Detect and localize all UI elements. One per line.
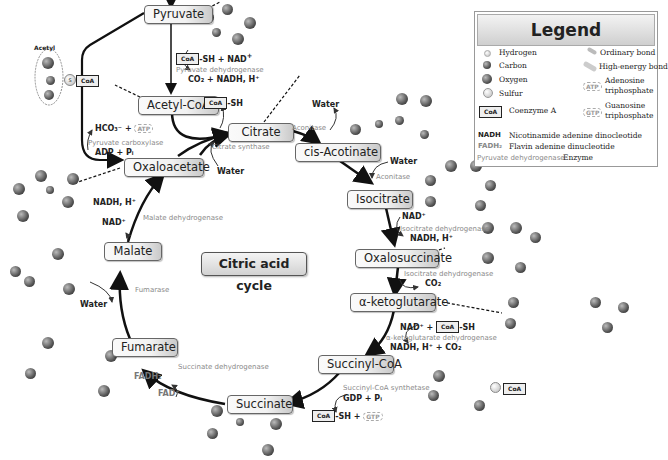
legend-ordinary-bond: Ordinary bond xyxy=(600,48,655,57)
node-citrate[interactable]: Citrate xyxy=(228,123,294,142)
coa-badge: CoA xyxy=(503,383,526,395)
enzyme-succinate-dehydrogenase: Succinate dehydrogenase xyxy=(178,363,269,371)
node-alpha-ketoglutarate[interactable]: α-ketoglutarate xyxy=(350,293,436,312)
legend-gtp-2: triphosphate xyxy=(605,111,654,120)
enzyme-succinyl-coa-synthetase: Succinyl-CoA synthetase xyxy=(343,384,429,392)
coa-sh-product: CoA-SH xyxy=(204,97,243,109)
co2-oxalosuccinate: CO₂ xyxy=(425,279,441,288)
oxygen-icon xyxy=(482,74,492,84)
node-succinate[interactable]: Succinate xyxy=(227,395,293,414)
hco3-atp: HCO₃⁻ + ATP xyxy=(95,124,153,133)
legend-hydrogen: Hydrogen xyxy=(499,48,537,57)
gtp-icon: GTP xyxy=(583,108,602,117)
nad-isocitrate: NAD⁺ xyxy=(402,212,426,221)
node-isocitrate[interactable]: Isocitrate xyxy=(347,190,413,209)
legend-carbon: Carbon xyxy=(499,61,527,70)
node-oxaloacetate[interactable]: Oxaloacetate xyxy=(124,158,204,177)
atp-icon: ATP xyxy=(583,82,602,91)
hydrogen-icon xyxy=(484,50,491,57)
legend-title: Legend xyxy=(477,14,655,46)
water-aconitase-1: Water xyxy=(312,100,339,109)
legend-panel: Legend Hydrogen Carbon Oxygen Sulfur CoA… xyxy=(474,11,658,131)
legend-enzyme-example: Pyruvate dehydrogenase xyxy=(477,154,565,162)
water-aconitase-2: Water xyxy=(390,157,417,166)
coa-sh-gtp: CoA-SH + GTP xyxy=(312,410,383,422)
legend-nadh-desc: Nicotinamide adenine dinocleotide xyxy=(509,131,642,140)
nadh-malate: NADH, H⁺ xyxy=(93,198,136,207)
coa-sh-nad: CoA-SH + NAD+ xyxy=(176,52,252,65)
legend-fadh-desc: Flavin adenine dinucleotide xyxy=(509,142,615,151)
legend-enzyme-desc: Enzyme xyxy=(563,153,593,162)
gdp-pi: GDP + Pᵢ xyxy=(343,394,382,403)
legend-atp-2: triphosphate xyxy=(605,86,654,95)
legend-oxygen: Oxygen xyxy=(499,75,528,84)
diagram-title: Citric acid cycle xyxy=(201,252,307,276)
enzyme-malate-dehydrogenase: Malate dehydrogenase xyxy=(143,214,223,222)
carbon-icon xyxy=(483,61,491,69)
enzyme-akg-dehydrogenase: α-ketoglutarate dehydrogenase xyxy=(386,334,497,342)
legend-gtp-1: Guanosine xyxy=(605,101,645,110)
enzyme-fumarase: Fumarase xyxy=(135,286,169,294)
enzyme-pyruvate-dehydrogenase: Pyruvate dehydrogenase xyxy=(176,66,264,74)
enzyme-aconitase-1: Aconitase xyxy=(292,124,326,132)
nad-malate: NAD⁺ xyxy=(102,218,126,227)
node-succinyl-coa[interactable]: Succinyl-CoA xyxy=(318,355,394,374)
nadh-co2-akg: NADH, H⁺ + CO₂ xyxy=(390,343,461,352)
node-cis-aconitate[interactable]: cis-Acotinate xyxy=(295,143,381,162)
enzyme-aconitase-2: Aconitase xyxy=(376,173,410,181)
node-oxalosuccinate[interactable]: Oxalosuccinate xyxy=(355,249,439,268)
water-citrate: Water xyxy=(217,167,244,176)
nad-coa-sh: NAD⁺ + CoA-SH xyxy=(400,321,475,333)
legend-high-energy-bond: High-energy bond xyxy=(599,62,668,71)
fadh2: FADH₂ xyxy=(134,372,162,381)
acetyl-label: Acetyl xyxy=(34,44,55,51)
fad: FAD⁺ xyxy=(158,389,180,398)
sulfur-icon xyxy=(483,88,493,98)
ordinary-bond-icon xyxy=(587,47,598,55)
enzyme-pyruvate-carboxylase: Pyruvate carboxylase xyxy=(88,139,163,147)
legend-abbreviations: NADH Nicotinamide adenine dinocleotide F… xyxy=(474,130,658,167)
node-fumarate[interactable]: Fumarate xyxy=(112,338,178,357)
enzyme-isocitrate-dehydrogenase-2: Isocitrate dehydrogenase xyxy=(404,270,493,278)
enzyme-citrate-synthase: Citrate synthase xyxy=(212,143,270,151)
legend-nadh-abbr: NADH xyxy=(478,131,501,139)
acetyl-coa-badge: CoA xyxy=(76,75,99,87)
node-malate[interactable]: Malate xyxy=(104,242,162,261)
enzyme-isocitrate-dehydrogenase-1: Isocitrate dehydrogenase xyxy=(400,225,489,233)
adp-pi: ADP + Pᵢ xyxy=(95,148,134,157)
nadh-isocitrate: NADH, H⁺ xyxy=(410,234,453,243)
coenzyme-a-icon: CoA xyxy=(479,106,502,118)
legend-fadh-abbr: FADH₂ xyxy=(478,142,502,150)
legend-atp-1: Adenosine xyxy=(605,76,645,85)
node-pyruvate[interactable]: Pyruvate xyxy=(144,5,213,24)
sulfur-atom: S xyxy=(64,74,76,86)
water-fumarase: Water xyxy=(80,300,107,309)
high-energy-bond-icon xyxy=(583,61,598,72)
legend-sulfur: Sulfur xyxy=(499,89,523,98)
co2-nadh: CO₂ + NADH, H⁺ xyxy=(188,75,259,84)
legend-coenzyme-a: Coenzyme A xyxy=(509,106,556,115)
